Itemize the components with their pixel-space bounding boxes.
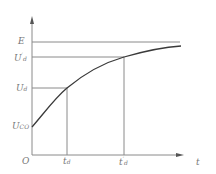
label-Ud-prime: U′d	[14, 52, 27, 63]
charging-curve-diagram	[0, 0, 216, 174]
x-axis-arrow-icon	[176, 153, 184, 157]
label-E: E	[18, 37, 25, 46]
label-Uco: UCO	[12, 122, 29, 131]
label-Ud: Ud	[16, 84, 27, 93]
label-td-prime: t′d	[119, 156, 128, 167]
label-origin: O	[22, 157, 29, 166]
charging-curve	[32, 46, 181, 127]
label-t: t	[196, 158, 200, 167]
label-td: td	[63, 157, 70, 166]
y-axis-arrow-icon	[30, 16, 34, 24]
